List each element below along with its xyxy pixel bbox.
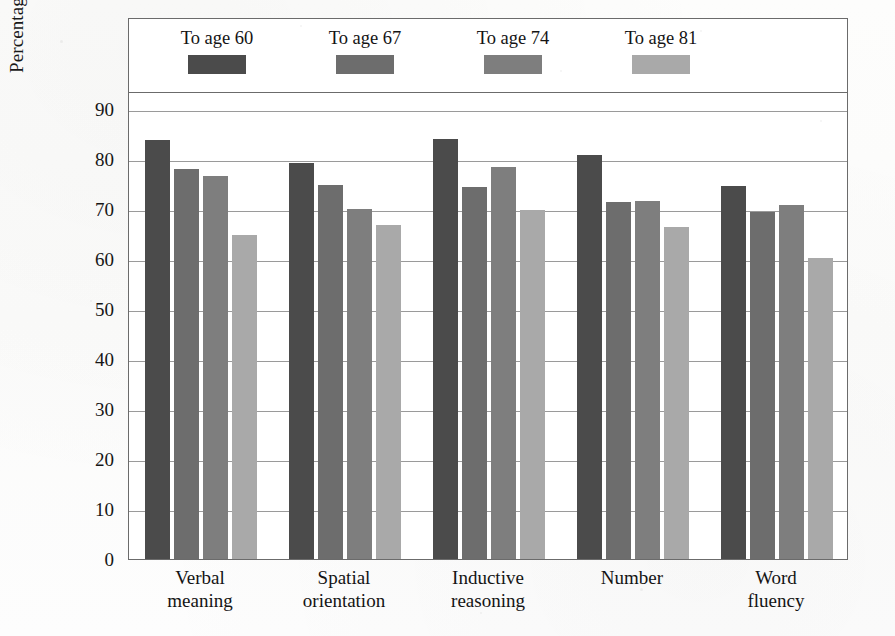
legend-item-label: To age 74 [443, 27, 583, 49]
legend-item[interactable]: To age 74 [443, 27, 583, 74]
bar [520, 210, 545, 559]
x-axis-category-label: Wordfluency [691, 566, 861, 612]
category-label-line: Word [691, 566, 861, 589]
bar [203, 176, 228, 559]
bar [721, 186, 746, 559]
bar [779, 205, 804, 560]
legend-item[interactable]: To age 60 [147, 27, 287, 74]
bar [606, 202, 631, 559]
y-axis-tick-label: 20 [54, 449, 114, 471]
bar [664, 227, 689, 560]
category-label-line: fluency [691, 589, 861, 612]
bars-layer [129, 19, 847, 559]
legend-color-swatch [336, 55, 394, 74]
bar [808, 258, 833, 560]
bar [376, 225, 401, 560]
x-axis-category-labels: VerbalmeaningSpatialorientationInductive… [128, 566, 848, 632]
y-axis-tick-labels: 0102030405060708090 [0, 18, 128, 560]
legend-color-swatch [484, 55, 542, 74]
bar [491, 167, 516, 559]
legend-item-label: To age 67 [295, 27, 435, 49]
y-axis-tick-label: 30 [54, 399, 114, 421]
legend-color-swatch [632, 55, 690, 74]
plot-area: To age 60To age 67To age 74To age 81 [128, 18, 848, 560]
category-label-line: reasoning [403, 589, 573, 612]
legend-item[interactable]: To age 81 [591, 27, 731, 74]
bar [433, 139, 458, 560]
legend-item-label: To age 81 [591, 27, 731, 49]
y-axis-tick-label: 40 [54, 349, 114, 371]
legend-item-label: To age 60 [147, 27, 287, 49]
y-axis-tick-label: 0 [54, 549, 114, 571]
legend-item[interactable]: To age 67 [295, 27, 435, 74]
chart-legend: To age 60To age 67To age 74To age 81 [129, 19, 847, 93]
bar [750, 212, 775, 559]
y-axis-tick-label: 10 [54, 499, 114, 521]
bar-chart-figure: Percentage maintaining over 7 years 0102… [0, 0, 895, 636]
y-axis-tick-label: 70 [54, 199, 114, 221]
y-axis-tick-label: 50 [54, 299, 114, 321]
y-axis-tick-label: 90 [54, 99, 114, 121]
bar [174, 169, 199, 559]
bar [462, 187, 487, 560]
y-axis-tick-label: 60 [54, 249, 114, 271]
legend-color-swatch [188, 55, 246, 74]
bar [289, 163, 314, 560]
bar [318, 185, 343, 560]
bar [577, 155, 602, 559]
y-axis-tick-label: 80 [54, 149, 114, 171]
bar [232, 235, 257, 559]
bar [347, 209, 372, 559]
bar [635, 201, 660, 559]
bar [145, 140, 170, 560]
